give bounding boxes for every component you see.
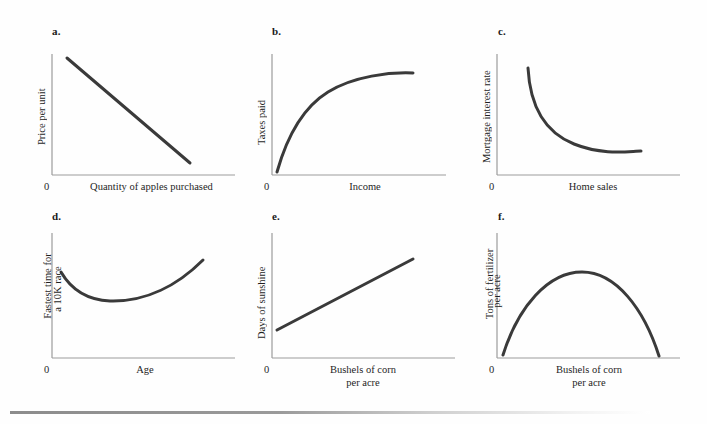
panel-b-y-label: Taxes paid [256,82,268,162]
panel-f-curve [503,272,659,356]
panel-c-x-label: Home sales [528,181,658,193]
panel-b-x-label: Income [300,181,430,193]
panel-c: c. Mortgage interest rate 0 Home sales [470,20,690,210]
panel-e: e. Days of sunshine 0 Bushels of corn pe… [250,205,470,395]
panel-a-y-label: Price per unit [36,72,48,162]
panel-f-x-label-line2: per acre [514,377,664,389]
panel-a-curve [67,58,190,163]
panel-d-curve [61,260,203,301]
bottom-divider-rule [10,411,650,414]
panel-e-x-label-line1: Bushels of corn [288,364,438,376]
panel-a-origin: 0 [44,181,49,192]
panel-c-curve [528,68,641,152]
figure-sheet: a. Price per unit 0 Quantity of apples p… [0,0,707,424]
panel-f-y-label-line2: per acre [491,248,503,334]
panel-c-y-label: Mortgage interest rate [481,62,493,172]
panel-f-origin: 0 [489,364,494,375]
panel-d-x-label: Age [80,364,210,376]
panel-d: d. Fastest time for a 10K race 0 Age [30,205,250,395]
panel-a-x-label: Quantity of apples purchased [64,181,239,193]
panel-e-x-label-line2: per acre [288,377,438,389]
panel-e-curve [277,259,413,330]
panel-d-y-label-line2: a 10K race [52,249,64,329]
panel-f-x-label-line1: Bushels of corn [514,364,664,376]
panel-b-curve [277,73,413,172]
panel-e-y-label: Days of sunshine [256,253,268,353]
panel-c-origin: 0 [489,181,494,192]
panel-b: b. Taxes paid 0 Income [250,20,470,210]
panel-d-origin: 0 [44,364,49,375]
panel-a: a. Price per unit 0 Quantity of apples p… [30,20,250,210]
panel-e-origin: 0 [264,364,269,375]
panel-f: f. Tons of fertilizer per acre 0 Bushels… [470,205,690,395]
panel-b-origin: 0 [264,181,269,192]
